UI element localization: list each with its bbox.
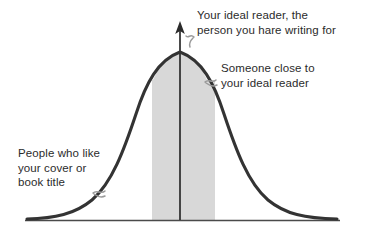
shaded-region-base	[152, 80, 215, 220]
leader-squiggle-top-icon	[186, 36, 194, 47]
annotation-ideal-reader: Your ideal reader, the person you hare w…	[197, 8, 367, 37]
figure-canvas: Your ideal reader, the person you hare w…	[0, 0, 368, 236]
annotation-people-who-like: People who like your cover or book title	[18, 146, 138, 190]
annotation-someone-close: Someone close to your ideal reader	[221, 61, 366, 90]
